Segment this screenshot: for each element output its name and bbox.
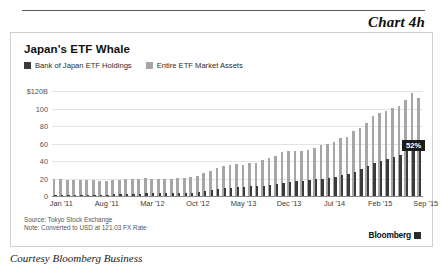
bar-group[interactable] <box>189 91 196 196</box>
y-axis-tick-label: 100 <box>36 104 48 113</box>
bar-boj-holdings <box>360 169 362 196</box>
legend-item-market[interactable]: Entire ETF Market Assets <box>146 61 243 70</box>
plot-area: 52% <box>52 91 423 196</box>
x-axis-line <box>52 196 423 197</box>
footnote-source: Source: Tokyo Stock Exchange <box>24 216 147 224</box>
bar-boj-holdings <box>302 181 304 196</box>
bar-group[interactable] <box>53 91 60 196</box>
y-axis-tick-label: 20 <box>40 174 48 183</box>
chart-title: Japan's ETF Whale <box>24 43 130 55</box>
bar-boj-holdings <box>347 174 349 196</box>
x-axis-tick-label: Oct '12 <box>186 199 209 208</box>
bar-group[interactable] <box>202 91 209 196</box>
bar-group[interactable] <box>118 91 125 196</box>
bar-entire-market <box>85 180 88 196</box>
bar-group[interactable] <box>59 91 66 196</box>
y-axis-tick-label: 80 <box>40 122 48 131</box>
legend-swatch-icon <box>146 62 153 69</box>
bar-group[interactable] <box>235 91 242 196</box>
y-axis: 020406080100$120B <box>11 91 48 197</box>
bloomberg-square-icon <box>414 232 421 239</box>
bar-boj-holdings <box>386 159 388 196</box>
bar-group[interactable] <box>98 91 105 196</box>
bar-boj-holdings <box>334 177 336 196</box>
bloomberg-wordmark: Bloomberg <box>369 230 411 240</box>
bar-entire-market <box>92 180 95 196</box>
bar-group[interactable] <box>294 91 301 196</box>
bar-group[interactable] <box>222 91 229 196</box>
bar-boj-holdings <box>341 175 343 196</box>
x-axis: Jan '11Aug '11Mar '12Oct '12May '13Dec '… <box>52 199 423 211</box>
bar-boj-holdings <box>308 180 310 196</box>
bar-group[interactable] <box>313 91 320 196</box>
bar-boj-holdings <box>217 189 219 196</box>
bar-boj-holdings <box>393 157 395 196</box>
bar-entire-market <box>79 180 82 196</box>
bar-boj-holdings <box>354 172 356 197</box>
y-axis-tick-label: 0 <box>44 192 48 201</box>
y-axis-tick-label: 40 <box>40 157 48 166</box>
bar-entire-market <box>105 181 108 196</box>
footnotes: Source: Tokyo Stock Exchange Note: Conve… <box>24 216 147 232</box>
x-axis-tick-label: Sep '15 <box>413 199 438 208</box>
bar-boj-holdings <box>419 145 421 196</box>
bar-group[interactable] <box>326 91 333 196</box>
bar-group[interactable] <box>163 91 170 196</box>
x-axis-tick-label: Aug '11 <box>95 199 119 208</box>
bar-group[interactable] <box>157 91 164 196</box>
chart-card: Japan's ETF Whale Bank of Japan ETF Hold… <box>10 32 433 247</box>
bar-group[interactable] <box>72 91 79 196</box>
chart-legend: Bank of Japan ETF Holdings Entire ETF Ma… <box>24 61 243 70</box>
bar-boj-holdings <box>289 182 291 196</box>
bar-group[interactable] <box>176 91 183 196</box>
y-axis-tick-label: $120B <box>27 87 48 96</box>
x-axis-tick-label: Feb '15 <box>368 199 392 208</box>
bar-boj-holdings <box>256 186 258 196</box>
bar-boj-holdings <box>328 178 330 196</box>
footnote-note: Note: Converted to USD at 121.03 FX Rate <box>24 224 147 232</box>
bar-group[interactable] <box>281 91 288 196</box>
bar-group[interactable] <box>365 91 372 196</box>
bar-boj-holdings <box>380 161 382 196</box>
bar-entire-market <box>53 179 56 196</box>
x-axis-tick-label: Jul '14 <box>324 199 345 208</box>
bar-boj-holdings <box>263 186 265 197</box>
bar-boj-holdings <box>237 187 239 196</box>
bar-group[interactable] <box>352 91 359 196</box>
bar-group[interactable] <box>209 91 216 196</box>
bar-entire-market <box>66 180 69 196</box>
x-axis-tick-label: Dec '13 <box>277 199 302 208</box>
bar-group[interactable] <box>307 91 314 196</box>
bar-group[interactable] <box>105 91 112 196</box>
y-axis-tick-label: 60 <box>40 139 48 148</box>
bar-boj-holdings <box>224 188 226 196</box>
bar-group[interactable] <box>261 91 268 196</box>
bar-group[interactable] <box>131 91 138 196</box>
bar-entire-market <box>98 181 101 196</box>
bar-group[interactable] <box>144 91 151 196</box>
chart-number-label: Chart 4h <box>368 14 425 31</box>
bar-boj-holdings <box>243 187 245 196</box>
legend-item-boj[interactable]: Bank of Japan ETF Holdings <box>24 61 132 70</box>
bar-group[interactable] <box>248 91 255 196</box>
bar-boj-holdings <box>406 151 408 197</box>
chart-page: Chart 4h Japan's ETF Whale Bank of Japan… <box>0 0 443 272</box>
x-axis-tick-label: Jan '11 <box>50 199 73 208</box>
bar-boj-holdings <box>230 188 232 196</box>
bar-group[interactable] <box>85 91 92 196</box>
bar-group[interactable] <box>268 91 275 196</box>
bar-group[interactable] <box>385 91 392 196</box>
bar-boj-holdings <box>399 155 401 196</box>
top-divider <box>22 10 425 11</box>
bloomberg-brand: Bloomberg <box>369 230 421 240</box>
x-axis-tick-label: May '13 <box>231 199 257 208</box>
legend-swatch-icon <box>24 62 31 69</box>
bar-entire-market <box>72 180 75 196</box>
bar-entire-market <box>59 179 62 196</box>
bar-boj-holdings <box>295 181 297 196</box>
bar-boj-holdings <box>315 179 317 196</box>
legend-label-boj: Bank of Japan ETF Holdings <box>35 61 132 70</box>
bar-group[interactable] <box>372 91 379 196</box>
bar-group[interactable] <box>339 91 346 196</box>
figure-caption: Courtesy Bloomberg Business <box>10 252 142 264</box>
